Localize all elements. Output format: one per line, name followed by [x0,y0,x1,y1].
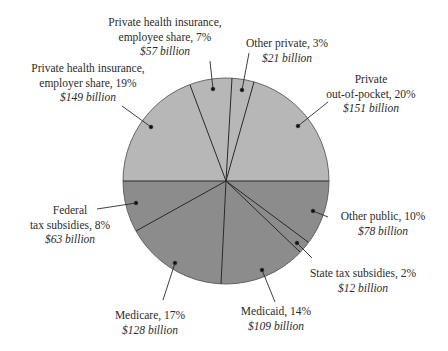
label-medicaid: Medicaid, 14% $109 billion [228,304,324,333]
label-out-of-pocket: Private out-of-pocket, 20% $151 billion [316,72,426,116]
label-other-private: Other private, 3% $21 billion [232,36,342,65]
label-medicare: Medicare, 17% $128 billion [100,308,200,337]
label-employee-share: Private health insurance, employee share… [96,15,234,59]
label-federal-tax-subsidies: Federal tax subsidies, 8% $63 billion [20,203,120,247]
label-employer-share: Private health insurance, employer share… [18,61,158,105]
label-other-public: Other public, 10% $78 billion [328,209,438,238]
label-state-tax-subsidies: State tax subsidies, 2% $12 billion [298,266,428,295]
